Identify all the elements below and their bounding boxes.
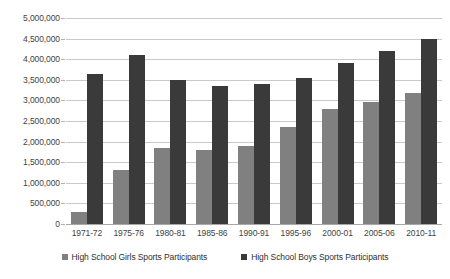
axis-baseline: [66, 224, 442, 225]
bar-group: [150, 18, 192, 224]
y-tick-mark: [61, 162, 65, 163]
legend-swatch-icon: [62, 254, 68, 260]
bar-boys: [421, 39, 437, 224]
y-tick-label: 4,500,000: [23, 34, 60, 44]
bar-group: [191, 18, 233, 224]
y-tick-label: 1,000,000: [23, 178, 60, 188]
bar-group: [233, 18, 275, 224]
bar-girls: [280, 127, 296, 224]
y-tick-mark: [61, 203, 65, 204]
y-tick-label: 4,000,000: [23, 54, 60, 64]
bar-girls: [71, 212, 87, 224]
legend-label: High School Boys Sports Participants: [251, 252, 388, 262]
y-tick-mark: [61, 100, 65, 101]
y-tick-mark: [61, 39, 65, 40]
bar-chart: 5,000,0004,500,0004,000,0003,500,0003,00…: [0, 0, 450, 279]
legend-item[interactable]: High School Girls Sports Participants: [62, 252, 208, 262]
bar-boys: [129, 55, 145, 224]
bar-boys: [338, 63, 354, 224]
bar-group: [317, 18, 359, 224]
y-tick-mark: [61, 183, 65, 184]
bar-boys: [170, 80, 186, 224]
bar-girls: [363, 102, 379, 224]
x-tick-label: 2005-06: [364, 228, 395, 238]
bar-group: [66, 18, 108, 224]
y-tick-label: 3,000,000: [23, 95, 60, 105]
x-tick-label: 2010-11: [406, 228, 436, 238]
bars-layer: [66, 18, 442, 224]
x-tick-label: 1971-72: [72, 228, 103, 238]
y-tick-mark: [61, 18, 65, 19]
y-tick-mark: [61, 142, 65, 143]
x-tick-label: 2000-01: [322, 228, 353, 238]
bar-group: [400, 18, 442, 224]
y-tick-mark: [61, 224, 65, 225]
y-tick-label: 3,500,000: [23, 75, 60, 85]
bar-girls: [154, 148, 170, 224]
y-tick-label: 2,500,000: [23, 116, 60, 126]
chart-legend: High School Girls Sports ParticipantsHig…: [0, 252, 450, 262]
bar-group: [275, 18, 317, 224]
bar-group: [108, 18, 150, 224]
x-tick-label: 1990-91: [239, 228, 270, 238]
legend-label: High School Girls Sports Participants: [72, 252, 208, 262]
x-tick-label: 1980-81: [155, 228, 186, 238]
bar-boys: [254, 84, 270, 224]
y-tick-label: 0: [55, 219, 60, 229]
y-tick-label: 500,000: [30, 198, 60, 208]
bar-boys: [296, 78, 312, 224]
bar-girls: [322, 109, 338, 224]
bar-boys: [212, 86, 228, 224]
y-tick-mark: [61, 80, 65, 81]
y-tick-label: 2,000,000: [23, 137, 60, 147]
bar-boys: [87, 74, 103, 224]
x-tick-label: 1975-76: [113, 228, 144, 238]
bar-group: [358, 18, 400, 224]
y-axis: 5,000,0004,500,0004,000,0003,500,0003,00…: [0, 18, 60, 224]
bar-girls: [405, 93, 421, 224]
y-tick-label: 1,500,000: [23, 157, 60, 167]
y-tick-label: 5,000,000: [23, 13, 60, 23]
legend-swatch-icon: [241, 254, 247, 260]
y-tick-mark: [61, 121, 65, 122]
x-axis: 1971-721975-761980-811985-861990-911995-…: [66, 228, 442, 244]
y-tick-mark: [61, 59, 65, 60]
bar-girls: [113, 170, 129, 224]
plot-area: [66, 18, 442, 224]
x-tick-label: 1985-86: [197, 228, 228, 238]
bar-girls: [238, 146, 254, 224]
bar-boys: [379, 51, 395, 224]
bar-girls: [196, 150, 212, 224]
x-tick-label: 1995-96: [281, 228, 312, 238]
legend-item[interactable]: High School Boys Sports Participants: [241, 252, 388, 262]
